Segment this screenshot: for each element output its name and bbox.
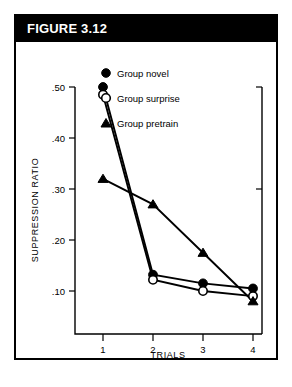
figure-title: FIGURE 3.12 bbox=[27, 21, 107, 36]
figure-card: FIGURE 3.12 .50 .40 .30 .20 bbox=[14, 14, 278, 360]
y-axis-title: SUPPRESSION RATIO bbox=[30, 158, 40, 263]
y-tick-label: .40 bbox=[52, 133, 65, 144]
chart-legend: Group novel Group surprise Group pretrai… bbox=[101, 68, 180, 129]
data-point-open-circle bbox=[149, 276, 157, 284]
y-axis-tick-labels: .50 .40 .30 .20 .10 bbox=[52, 82, 65, 297]
series-line bbox=[103, 179, 253, 301]
x-axis-title: TRIALS bbox=[150, 350, 185, 360]
x-tick-label: 3 bbox=[200, 344, 205, 355]
data-point-triangle bbox=[98, 174, 108, 182]
legend-label-group-pretrain: Group pretrain bbox=[117, 118, 178, 129]
legend-label-group-surprise: Group surprise bbox=[117, 93, 180, 104]
y-tick-label: .30 bbox=[52, 184, 65, 195]
chart-plot-area: .50 .40 .30 .20 .10 SUPPRESSION RATIO 1 … bbox=[16, 42, 276, 360]
y-tick-label: .10 bbox=[52, 286, 65, 297]
x-axis-ticks bbox=[103, 334, 253, 341]
x-tick-label: 4 bbox=[250, 344, 255, 355]
series-markers bbox=[98, 83, 258, 305]
legend-label-group-novel: Group novel bbox=[117, 68, 169, 79]
data-point-triangle bbox=[148, 200, 158, 208]
x-tick-label: 1 bbox=[100, 344, 105, 355]
y-tick-label: .50 bbox=[52, 82, 65, 93]
legend-marker-open-circle-icon bbox=[102, 94, 111, 103]
data-point-open-circle bbox=[199, 287, 207, 295]
y-tick-label: .20 bbox=[52, 235, 65, 246]
figure-title-bar: FIGURE 3.12 bbox=[16, 16, 276, 42]
legend-marker-filled-circle-icon bbox=[102, 69, 111, 78]
suppression-ratio-line-chart: .50 .40 .30 .20 .10 SUPPRESSION RATIO 1 … bbox=[16, 42, 276, 360]
